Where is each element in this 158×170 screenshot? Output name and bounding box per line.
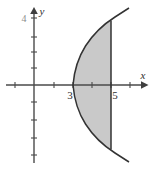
x-tick-label-5: 5	[112, 89, 118, 101]
x-axis-label: x	[140, 69, 146, 81]
coordinate-plane-svg: x y 4 3 5	[0, 0, 158, 170]
x-tick-label-3: 3	[67, 89, 73, 101]
y-axis-label: y	[39, 5, 45, 17]
y-tick-label-4: 4	[22, 13, 27, 24]
y-axis-arrow-icon	[30, 7, 38, 14]
x-axis-arrow-icon	[141, 81, 149, 89]
math-figure: x y 4 3 5	[0, 0, 158, 170]
